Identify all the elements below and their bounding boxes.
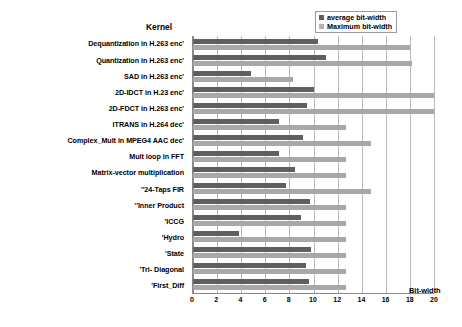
bar-maximum-bit-width (193, 157, 346, 162)
category-label: 'Hydro (0, 230, 188, 246)
value-tick-label: 10 (309, 296, 317, 303)
category-label: 2D-IDCT in H.23 enc' (0, 84, 188, 100)
bar-maximum-bit-width (193, 253, 346, 258)
value-tick-label: 16 (382, 296, 390, 303)
value-tick-label: 14 (357, 296, 365, 303)
legend-item-maximum: Maximum bit-width (319, 23, 392, 31)
bar-row (193, 165, 434, 181)
bar-maximum-bit-width (193, 141, 371, 146)
bar-maximum-bit-width (193, 205, 346, 210)
value-tick-label: 4 (238, 296, 242, 303)
category-label: 'State (0, 246, 188, 262)
bar-average-bit-width (193, 103, 307, 108)
value-tick-label: 6 (263, 296, 267, 303)
category-label: 2D-FDCT in H.263 enc' (0, 101, 188, 117)
bit-width-bar-chart: Kernel average bit-width Maximum bit-wid… (0, 0, 462, 327)
value-tick-label: 8 (287, 296, 291, 303)
bar-maximum-bit-width (193, 237, 346, 242)
plot-area (192, 36, 434, 294)
bar-maximum-bit-width (193, 61, 412, 66)
category-label: Quantization in H.263 enc' (0, 52, 188, 68)
bar-row (193, 197, 434, 213)
chart-legend: average bit-width Maximum bit-width (315, 11, 397, 33)
bar-maximum-bit-width (193, 269, 346, 274)
category-label: Matrix-vector multiplication (0, 165, 188, 181)
category-label: ''Inner Product (0, 197, 188, 213)
legend-label-maximum: Maximum bit-width (327, 23, 392, 31)
bar-maximum-bit-width (193, 93, 434, 98)
value-tick-label: 12 (333, 296, 341, 303)
gridline-20 (434, 36, 435, 293)
bar-row (193, 116, 434, 132)
category-label: ''24-Taps FIR (0, 181, 188, 197)
bar-maximum-bit-width (193, 45, 410, 50)
bar-average-bit-width (193, 119, 279, 124)
legend-label-average: average bit-width (327, 14, 386, 22)
value-axis-title: Bit-width (409, 286, 441, 295)
value-tick-label: 0 (190, 296, 194, 303)
bar-average-bit-width (193, 247, 311, 252)
category-axis-labels: Dequantization in H.263 enc'Quantization… (0, 36, 188, 294)
value-tick-label: 18 (406, 296, 414, 303)
category-label: ITRANS in H.264 dec' (0, 117, 188, 133)
bar-row (193, 261, 434, 277)
value-axis-ticks: 02468101214161820 (192, 296, 434, 310)
bar-average-bit-width (193, 167, 295, 172)
bar-average-bit-width (193, 135, 303, 140)
bar-maximum-bit-width (193, 77, 293, 82)
category-label: 'First_Diff (0, 278, 188, 294)
category-label: Dequantization in H.263 enc' (0, 36, 188, 52)
category-label: 'Tri- Diagonal (0, 262, 188, 278)
category-label: 'ICCG (0, 213, 188, 229)
bar-row (193, 52, 434, 68)
bar-row (193, 229, 434, 245)
bar-average-bit-width (193, 39, 318, 44)
bar-average-bit-width (193, 151, 279, 156)
bar-row (193, 132, 434, 148)
legend-swatch-average (319, 15, 324, 20)
bar-average-bit-width (193, 231, 239, 236)
bar-maximum-bit-width (193, 125, 346, 130)
bar-maximum-bit-width (193, 109, 434, 114)
bar-row (193, 245, 434, 261)
bar-average-bit-width (193, 199, 310, 204)
bar-average-bit-width (193, 71, 251, 76)
bar-row (193, 36, 434, 52)
bar-average-bit-width (193, 183, 286, 188)
bar-maximum-bit-width (193, 173, 346, 178)
bar-average-bit-width (193, 279, 309, 284)
category-label: Mult loop in FFT (0, 149, 188, 165)
bar-row (193, 100, 434, 116)
bar-average-bit-width (193, 263, 306, 268)
bar-maximum-bit-width (193, 189, 371, 194)
bar-maximum-bit-width (193, 285, 346, 290)
bar-row (193, 68, 434, 84)
bar-average-bit-width (193, 55, 326, 60)
bar-row (193, 84, 434, 100)
legend-item-average: average bit-width (319, 14, 392, 22)
bar-average-bit-width (193, 87, 314, 92)
bar-average-bit-width (193, 215, 301, 220)
bar-row (193, 277, 434, 293)
value-tick-label: 20 (430, 296, 438, 303)
value-tick-label: 2 (214, 296, 218, 303)
bar-maximum-bit-width (193, 221, 346, 226)
bar-row (193, 213, 434, 229)
bar-rows (193, 36, 434, 293)
category-label: Complex_Mult in MPEG4 AAC dec' (0, 133, 188, 149)
category-label: SAD in H.263 enc' (0, 68, 188, 84)
legend-swatch-maximum (319, 24, 324, 29)
chart-title: Kernel (146, 22, 172, 32)
bar-row (193, 148, 434, 164)
bar-row (193, 181, 434, 197)
